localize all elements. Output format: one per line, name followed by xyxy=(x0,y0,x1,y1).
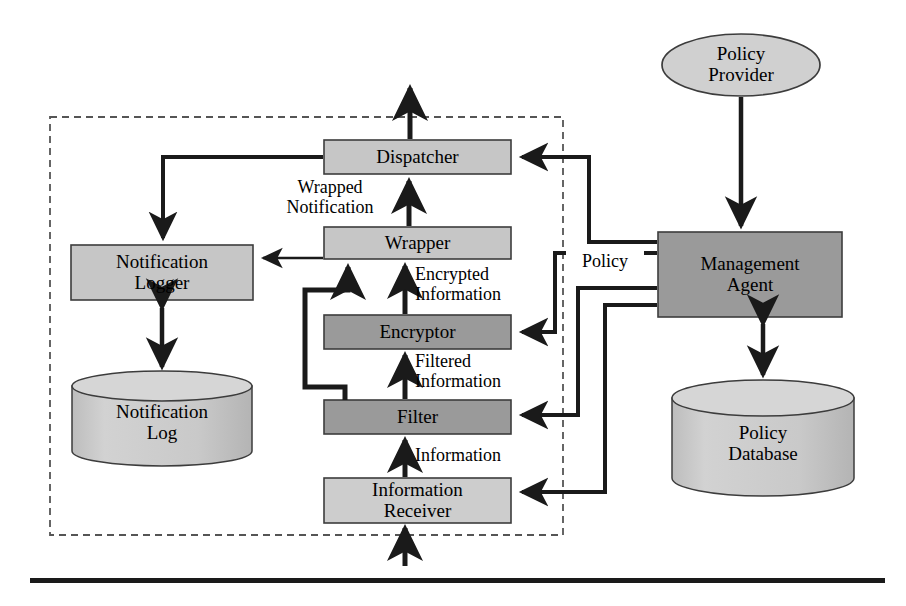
node-wrapper[interactable] xyxy=(324,227,511,259)
flow-agent-to-dispatcher xyxy=(522,157,657,242)
node-filter[interactable] xyxy=(324,400,511,434)
edge-label-policy: Policy xyxy=(568,252,642,272)
node-information-receiver[interactable] xyxy=(324,478,511,523)
node-policy-provider[interactable] xyxy=(662,34,820,96)
edge-label-filtered-information: Filtered Information xyxy=(415,352,605,392)
node-management-agent[interactable] xyxy=(658,232,842,317)
bottom-rule xyxy=(30,578,885,583)
edge-label-wrapped-notification: Wrapped Notification xyxy=(255,178,405,218)
diagram-canvas: Dispatcher Wrapper Encryptor Filter Info… xyxy=(0,0,906,606)
node-notification-logger[interactable] xyxy=(71,245,253,300)
edge-label-information: Information xyxy=(415,446,605,466)
node-dispatcher[interactable] xyxy=(324,140,511,174)
node-encryptor[interactable] xyxy=(324,315,511,349)
node-notification-log[interactable] xyxy=(72,371,252,466)
node-policy-database[interactable] xyxy=(672,380,854,496)
